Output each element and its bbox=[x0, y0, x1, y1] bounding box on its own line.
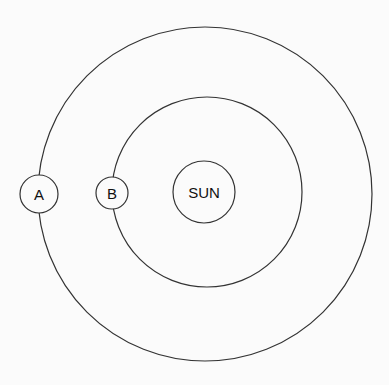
orbit-diagram: SUN A B bbox=[0, 0, 389, 385]
planet-b-label: B bbox=[107, 185, 117, 202]
planet-a: A bbox=[20, 175, 58, 213]
sun: SUN bbox=[173, 161, 235, 223]
planet-a-label: A bbox=[34, 186, 44, 203]
planet-b: B bbox=[96, 177, 128, 209]
sun-label: SUN bbox=[188, 184, 220, 201]
